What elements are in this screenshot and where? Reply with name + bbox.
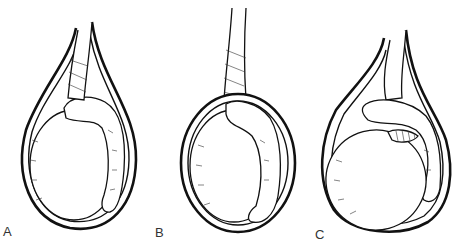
panel-c-drawing [315,30,450,241]
torsion-illustration [0,0,465,247]
panel-label-a: A [3,224,12,239]
panel-label-c: C [315,227,324,242]
panel-label-b: B [155,225,164,240]
panel-b-spermatic-cord [224,8,246,100]
panel-b-drawing [181,8,295,232]
panel-a-drawing [22,22,136,229]
